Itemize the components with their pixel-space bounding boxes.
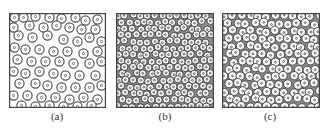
particle-packing-b [116, 13, 214, 108]
caption-a: (a) [37, 110, 77, 122]
panel-c [222, 13, 320, 108]
particle-packing-c [222, 13, 320, 108]
caption-b: (b) [145, 110, 185, 122]
panel-a [9, 13, 106, 108]
particle-packing-a [9, 13, 106, 108]
panel-b [116, 13, 214, 108]
caption-c: (c) [250, 110, 290, 122]
